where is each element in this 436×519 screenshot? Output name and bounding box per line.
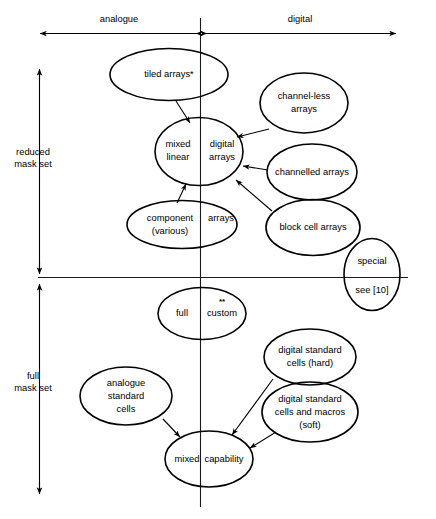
node-asc-label-line3: cells	[117, 403, 136, 414]
node-full-label: full	[176, 307, 188, 318]
node-component-label: component	[147, 212, 194, 223]
node-mixed-capability[interactable]: mixed capability	[165, 431, 253, 487]
arrow-channelled-to-mixed	[243, 166, 268, 170]
reduced-mask-set-label-line1: reduced	[16, 146, 50, 157]
node-special-see-10[interactable]: special see [10]	[344, 239, 400, 311]
node-see-10-label: see [10]	[355, 284, 388, 295]
node-mixed-linear-digital-arrays[interactable]: mixed linear digital arrays	[155, 118, 243, 186]
node-channel-less-label-line2: arrays	[291, 103, 317, 114]
node-various-label: (various)	[152, 225, 188, 236]
node-linear-label: linear	[167, 151, 190, 162]
diagram-canvas: analogue digital reduced mask set full m…	[0, 0, 436, 519]
node-channel-less-arrays[interactable]: channel-less arrays	[260, 73, 348, 133]
node-digital-standard-cells-macros-soft[interactable]: digital standard cells and macros (soft)	[262, 382, 358, 442]
node-digital-label: digital	[210, 138, 235, 149]
node-mixed-capability-label-line2: capability	[204, 453, 243, 464]
node-full-custom[interactable]: full custom **	[158, 288, 246, 340]
reduced-mask-set-label-line2: mask set	[14, 158, 52, 169]
node-custom-superscript: **	[219, 297, 226, 306]
node-block-cell-arrays[interactable]: block cell arrays	[266, 200, 360, 256]
node-component-arrays-label: arrays	[208, 212, 234, 223]
full-mask-set-label-line2: mask set	[14, 382, 52, 393]
node-custom-label: custom	[207, 307, 237, 318]
node-dsc-hard-label-line1: digital standard	[278, 344, 342, 355]
node-asc-label-line2: standard	[108, 390, 144, 401]
arrow-analogue-standard-cells-to-mixed-capability	[163, 419, 180, 437]
node-asc-label-line1: analogue	[107, 377, 146, 388]
node-channel-less-label-line1: channel-less	[278, 90, 331, 101]
node-channelled-arrays-label: channelled arrays	[275, 166, 349, 177]
node-channelled-arrays[interactable]: channelled arrays	[267, 144, 357, 200]
node-mixed-label: mixed	[165, 138, 190, 149]
arrow-dsc-soft-to-mixed-capability	[250, 432, 276, 448]
node-analogue-standard-cells[interactable]: analogue standard cells	[80, 367, 172, 425]
node-digital-standard-cells-hard[interactable]: digital standard cells (hard)	[264, 329, 356, 385]
node-special-see-10-ellipse[interactable]	[344, 239, 400, 311]
node-component-various-arrays[interactable]: component (various) arrays	[127, 201, 237, 249]
design-style-classification-diagram: analogue digital reduced mask set full m…	[0, 0, 436, 519]
node-dsc-soft-label-line1: digital standard	[278, 393, 342, 404]
node-tiled-arrays[interactable]: tiled arrays*	[110, 49, 228, 101]
node-block-cell-arrays-label: block cell arrays	[279, 221, 347, 232]
node-dsc-soft-label-line3: (soft)	[299, 419, 320, 430]
node-special-label: special	[357, 255, 386, 266]
node-dsc-hard-label-line2: cells (hard)	[287, 357, 333, 368]
node-tiled-arrays-label: tiled arrays*	[144, 68, 194, 79]
analogue-axis-label: analogue	[100, 13, 139, 24]
full-mask-set-label-line1: full	[27, 370, 39, 381]
arrow-channel-less-to-mixed	[237, 129, 269, 137]
arrow-block-cell-to-mixed	[236, 180, 272, 211]
node-dsc-soft-label-line2: cells and macros	[275, 406, 346, 417]
node-mixed-capability-label-line1: mixed	[174, 453, 199, 464]
digital-axis-label: digital	[288, 13, 313, 24]
node-arrays-label: arrays	[209, 151, 235, 162]
